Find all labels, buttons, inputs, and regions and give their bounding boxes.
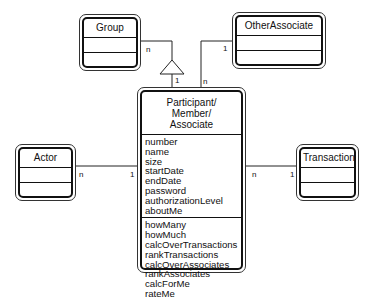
class-name-line: Participant/: [144, 97, 239, 108]
multiplicity-group: n: [146, 46, 150, 54]
multiplicity-transaction: 1: [290, 171, 294, 179]
attributes-section: [237, 36, 321, 51]
class-name: Group: [84, 19, 136, 38]
class-name: OtherAssociate: [237, 17, 321, 36]
class-group[interactable]: Group: [79, 14, 141, 71]
class-participant[interactable]: Participant/ Member/ Associate number na…: [137, 87, 246, 273]
operation: rateMe: [145, 289, 238, 299]
generalization-triangle-icon: [160, 60, 184, 74]
multiplicity-actor: n: [79, 171, 83, 179]
class-name: Transaction: [301, 149, 354, 168]
group-association-line: [140, 41, 172, 60]
attribute: aboutMe: [145, 206, 238, 216]
multiplicity-participant-generalization: 1: [175, 77, 179, 85]
attributes-section: [84, 38, 136, 53]
class-actor[interactable]: Actor: [15, 144, 76, 201]
operations-section: [20, 183, 71, 197]
class-transaction[interactable]: Transaction: [296, 144, 359, 201]
class-name-line: Member/: [144, 108, 239, 119]
class-other-associate[interactable]: OtherAssociate: [232, 12, 326, 69]
class-name: Participant/ Member/ Associate: [142, 92, 241, 135]
multiplicity-participant-transaction: n: [252, 171, 256, 179]
multiplicity-participant-actor: 1: [130, 171, 134, 179]
class-name: Actor: [20, 149, 71, 168]
operations-section: [301, 183, 354, 197]
operations-section: [84, 53, 136, 67]
multiplicity-other-associate: 1: [223, 45, 227, 53]
operations-section: [237, 51, 321, 65]
operations-section: howMany howMuch calcOverTransactions ran…: [142, 218, 241, 300]
class-name-line: Associate: [144, 119, 239, 130]
attributes-section: [20, 168, 71, 183]
multiplicity-participant-other: n: [203, 78, 207, 86]
attributes-section: [301, 168, 354, 183]
attributes-section: number name size startDate endDate passw…: [142, 135, 241, 218]
